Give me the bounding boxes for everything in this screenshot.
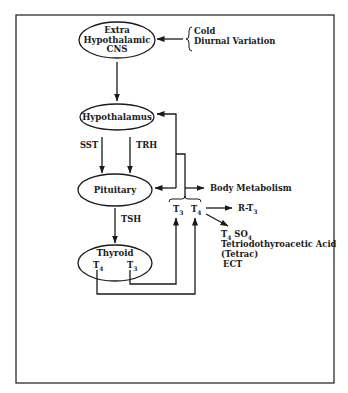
- pituitary-label: Pituitary: [94, 185, 137, 195]
- input-cold: Cold: [194, 26, 215, 36]
- label-trh: TRH: [136, 140, 157, 150]
- node-thyroid: Thyroid T4 T3: [78, 245, 152, 281]
- hormone-t3: T3: [173, 204, 183, 216]
- feedback-to-hypothalamus: [157, 114, 176, 188]
- thyroid-t4: T4: [93, 260, 103, 272]
- thyroid-label: Thyroid: [96, 248, 133, 258]
- label-body-metabolism: Body Metabolism: [210, 183, 292, 193]
- hormone-brace: [169, 196, 201, 202]
- label-tetriodothyroacetic-acid: Tetriodothyroacetic Acid: [221, 239, 337, 249]
- hormone-t4: T4: [191, 204, 201, 216]
- label-tsh: TSH: [121, 214, 141, 224]
- input-diurnal-variation: Diurnal Variation: [194, 36, 275, 46]
- label-sst: SST: [80, 140, 99, 150]
- label-rt3: R-T3: [238, 203, 257, 215]
- label-ect: ECT: [223, 259, 243, 269]
- arrow-to-metabolites: [206, 214, 228, 226]
- cns-label-line1: Extra: [104, 25, 130, 35]
- label-tetrac: (Tetrac): [221, 249, 258, 259]
- cns-label-line2: Hypothalamic: [83, 35, 150, 45]
- feedback-step: [176, 154, 185, 197]
- inputs-brace: [186, 27, 192, 51]
- node-hypothalamus: Hypothalamus: [80, 104, 154, 130]
- node-pituitary: Pituitary: [78, 174, 152, 206]
- node-extra-hypothalamic-cns: Extra Hypothalamic CNS: [79, 22, 155, 58]
- cns-label-line3: CNS: [107, 44, 128, 54]
- hypothalamus-label: Hypothalamus: [82, 112, 152, 122]
- thyroid-t3: T3: [127, 260, 137, 272]
- thyroid-regulation-diagram: Extra Hypothalamic CNS Cold Diurnal Vari…: [0, 0, 348, 393]
- connector-thyroid-t3: [130, 218, 176, 284]
